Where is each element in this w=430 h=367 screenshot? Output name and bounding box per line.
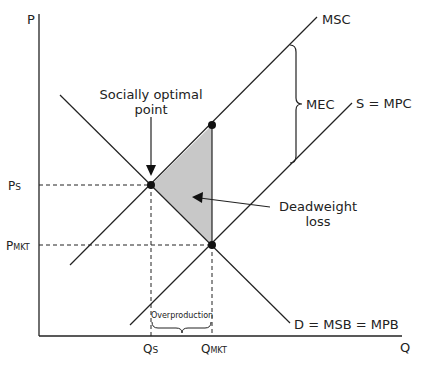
mec-brace <box>290 45 302 163</box>
pmkt-label: PMKT <box>6 239 30 253</box>
arrow-down-icon <box>146 165 156 176</box>
market-equilibrium-point <box>208 241 216 249</box>
mec-label: MEC <box>306 97 335 112</box>
socially-optimal-label-line2: point <box>134 102 167 117</box>
y-axis-label: P <box>27 12 35 27</box>
msc-label: MSC <box>322 12 351 27</box>
deadweight-loss-area <box>151 125 212 245</box>
qmkt-label: QMKT <box>201 342 227 356</box>
externality-diagram: P Q MSC S = MPC D = MSB = MPB MEC Social… <box>0 0 430 367</box>
demand-label: D = MSB = MPB <box>294 317 399 332</box>
overproduction-label: Overproduction <box>151 311 213 320</box>
overproduction-brace <box>152 322 211 333</box>
demand-curve <box>60 95 290 323</box>
deadweight-label-line1: Deadweight <box>279 199 357 214</box>
x-axis-label: Q <box>400 340 410 355</box>
msc-at-qmkt-point <box>208 121 216 129</box>
ps-label: PS <box>8 179 21 193</box>
deadweight-label-line2: loss <box>305 214 330 229</box>
socially-optimal-point <box>147 181 155 189</box>
mpc-label: S = MPC <box>356 96 412 111</box>
socially-optimal-label-line1: Socially optimal <box>99 87 202 102</box>
qs-label: QS <box>143 342 158 356</box>
